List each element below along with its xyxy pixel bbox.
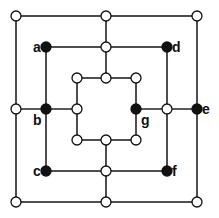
label-f: f [172,163,177,179]
empty-point[interactable] [192,11,202,21]
empty-point[interactable] [101,73,111,83]
piece-g[interactable] [131,104,141,114]
label-c: c [33,163,41,179]
piece-d[interactable] [162,42,172,52]
empty-point[interactable] [101,42,111,52]
empty-point[interactable] [72,135,82,145]
empty-point[interactable] [11,11,21,21]
empty-point[interactable] [131,135,141,145]
label-a: a [33,39,41,55]
piece-f[interactable] [162,166,172,176]
empty-point[interactable] [11,104,21,114]
empty-point[interactable] [162,104,172,114]
piece-e[interactable] [192,104,202,114]
inner-square [77,78,136,140]
piece-c[interactable] [41,166,51,176]
label-b: b [33,112,42,128]
label-d: d [172,39,181,55]
piece-a[interactable] [41,42,51,52]
empty-point[interactable] [72,104,82,114]
empty-point[interactable] [101,135,111,145]
morris-board: adbgecf [0,0,219,218]
label-g: g [141,112,150,128]
empty-point[interactable] [192,197,202,207]
empty-point[interactable] [101,166,111,176]
empty-point[interactable] [72,73,82,83]
piece-b[interactable] [41,104,51,114]
label-e: e [202,101,210,117]
empty-point[interactable] [101,197,111,207]
empty-point[interactable] [11,197,21,207]
empty-point[interactable] [101,11,111,21]
empty-point[interactable] [131,73,141,83]
